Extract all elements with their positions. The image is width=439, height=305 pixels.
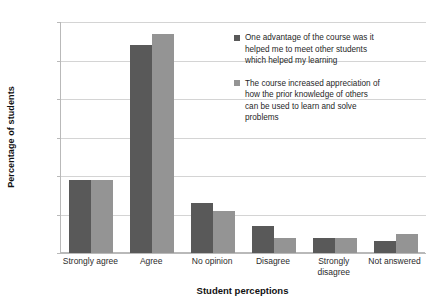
- y-tick-mark-0: [57, 253, 61, 254]
- x-axis-tick-labels: Strongly agreeAgreeNo opinionDisagreeStr…: [60, 256, 425, 277]
- legend: One advantage of the course was ithelped…: [234, 32, 434, 135]
- bar: [274, 238, 296, 253]
- y-axis-title: Percentage of students: [6, 86, 16, 188]
- legend-entry[interactable]: The course increased appreciation ofhow …: [234, 78, 434, 124]
- bar: [152, 34, 174, 253]
- bar-chart: 0102030405060 Percentage of students Str…: [0, 0, 439, 305]
- bar: [252, 226, 274, 253]
- legend-swatch-icon: [234, 35, 240, 41]
- bar: [313, 238, 335, 253]
- bar: [69, 180, 91, 253]
- bar: [213, 211, 235, 253]
- legend-swatch-icon: [234, 80, 240, 86]
- bar: [191, 203, 213, 253]
- x-tick-label: Strongly agree: [60, 256, 121, 277]
- bar-group: [61, 22, 122, 253]
- bar: [91, 180, 113, 253]
- bar: [374, 241, 396, 253]
- x-tick-label: Not answered: [364, 256, 425, 277]
- x-axis-title: Student perceptions: [60, 285, 425, 296]
- x-tick-label: Agree: [121, 256, 182, 277]
- bar: [396, 234, 418, 253]
- legend-entry[interactable]: One advantage of the course was ithelped…: [234, 32, 434, 67]
- bar: [130, 45, 152, 253]
- legend-label: The course increased appreciation ofhow …: [245, 78, 380, 124]
- x-tick-label: Stronglydisagree: [303, 256, 364, 277]
- bar: [335, 238, 357, 253]
- legend-label: One advantage of the course was ithelped…: [245, 32, 374, 67]
- bar-group: [122, 22, 183, 253]
- x-tick-label: Disagree: [242, 256, 303, 277]
- gridline-0: [61, 253, 426, 254]
- x-tick-label: No opinion: [182, 256, 243, 277]
